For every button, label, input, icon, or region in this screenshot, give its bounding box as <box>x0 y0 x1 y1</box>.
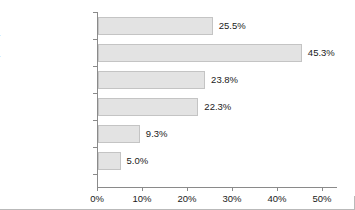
bar-value-label: 9.3% <box>146 125 168 143</box>
bar-value-label: 45.3% <box>308 44 335 62</box>
x-axis-tick <box>277 187 278 191</box>
x-axis-tick-label: 0% <box>90 193 104 205</box>
x-axis-tick <box>187 187 188 191</box>
bar-value-label: 23.8% <box>211 71 238 89</box>
bar <box>98 17 213 35</box>
x-axis-tick <box>97 187 98 191</box>
y-axis-tick <box>93 120 97 121</box>
bar <box>98 98 198 116</box>
bar-value-label: 22.3% <box>204 98 231 116</box>
y-axis-tick <box>93 93 97 94</box>
y-axis-tick <box>93 66 97 67</box>
x-axis-tick-label: 50% <box>312 193 331 205</box>
y-axis-tick <box>93 39 97 40</box>
x-axis-line <box>97 187 337 188</box>
x-axis-tick <box>232 187 233 191</box>
plot-area: No high school diploma 25.5% GED diploma… <box>0 0 355 210</box>
frame-bottom-border <box>0 209 355 210</box>
x-axis-tick-label: 10% <box>132 193 151 205</box>
bar-value-label: 5.0% <box>127 152 149 170</box>
bar <box>98 152 121 170</box>
bar <box>98 125 140 143</box>
bar <box>98 71 205 89</box>
y-axis-tick <box>93 174 97 175</box>
x-axis-tick-label: 30% <box>222 193 241 205</box>
x-axis-tick <box>322 187 323 191</box>
bar-value-label: 25.5% <box>219 17 246 35</box>
x-axis-tick <box>142 187 143 191</box>
y-axis-tick <box>93 147 97 148</box>
y-axis-tick <box>93 12 97 13</box>
bar <box>98 44 302 62</box>
x-axis-tick-label: 40% <box>267 193 286 205</box>
bar-chart: No high school diploma 25.5% GED diploma… <box>0 0 355 210</box>
x-axis-tick-label: 20% <box>177 193 196 205</box>
